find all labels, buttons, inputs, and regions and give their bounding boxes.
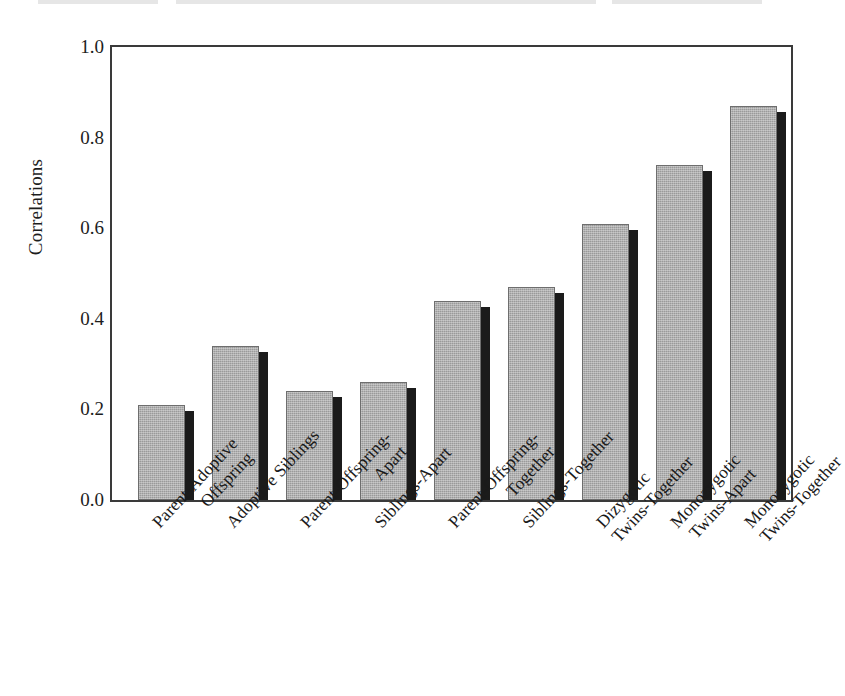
bar-shadow	[703, 171, 712, 500]
y-axis-tick-label: 0.6	[62, 218, 104, 237]
bar-shadow	[777, 112, 786, 500]
bars-layer	[112, 47, 791, 500]
y-axis-tick-label: 0.2	[62, 399, 104, 418]
x-axis-category-labels: Parent-AdoptiveOffspringAdoptive Sibling…	[0, 502, 824, 696]
y-axis-tick-label: 0.4	[62, 309, 104, 328]
bar[interactable]	[730, 106, 786, 500]
y-axis-tick-label: 1.0	[62, 37, 104, 56]
y-axis-tick-label: 0.8	[62, 128, 104, 147]
y-axis-title: Correlations	[25, 127, 47, 287]
bar-face	[730, 106, 777, 500]
bar-shadow	[629, 230, 638, 500]
